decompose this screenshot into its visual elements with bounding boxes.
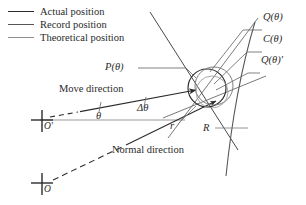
label-q-theta: Q(θ) bbox=[263, 11, 283, 22]
move-direction-dash-segment bbox=[50, 112, 78, 117]
legend-line-icon-theoretical bbox=[8, 37, 34, 38]
leader-line-radius-r bbox=[178, 106, 196, 124]
legend-item-actual-position: Actual position bbox=[8, 5, 124, 18]
label-p-theta: P(θ) bbox=[105, 61, 124, 72]
label-normal-direction: Normal direction bbox=[112, 144, 184, 155]
label-delta-theta: Δθ bbox=[137, 102, 148, 113]
legend-item-record-position: Record position bbox=[8, 18, 124, 31]
label-c-theta: C(θ) bbox=[263, 33, 282, 44]
legend-item-theoretical-position: Theoretical position bbox=[8, 31, 124, 44]
legend-label-theoretical: Theoretical position bbox=[40, 32, 124, 43]
legend-label-actual: Actual position bbox=[40, 6, 104, 17]
label-q-theta-prime: Q(θ)' bbox=[261, 54, 283, 65]
legend-line-icon-actual bbox=[8, 11, 34, 12]
crossing-line-c bbox=[163, 76, 266, 118]
diagram-canvas: Actual position Record position Theoreti… bbox=[0, 0, 306, 205]
legend-line-icon-record bbox=[8, 24, 34, 25]
label-move-direction: Move direction bbox=[59, 83, 123, 94]
label-origin: O bbox=[44, 184, 51, 195]
leader-line-q-theta bbox=[210, 30, 262, 72]
legend-label-record: Record position bbox=[40, 19, 107, 30]
label-theta: θ bbox=[96, 110, 101, 121]
workpiece-arc bbox=[226, 22, 255, 176]
label-radius-r: r bbox=[170, 120, 174, 131]
record-position-circle bbox=[195, 67, 233, 105]
legend: Actual position Record position Theoreti… bbox=[8, 5, 124, 44]
label-radius-R: R bbox=[203, 122, 209, 133]
label-origin-prime: O' bbox=[44, 121, 53, 132]
leader-line-p-theta bbox=[138, 68, 196, 78]
